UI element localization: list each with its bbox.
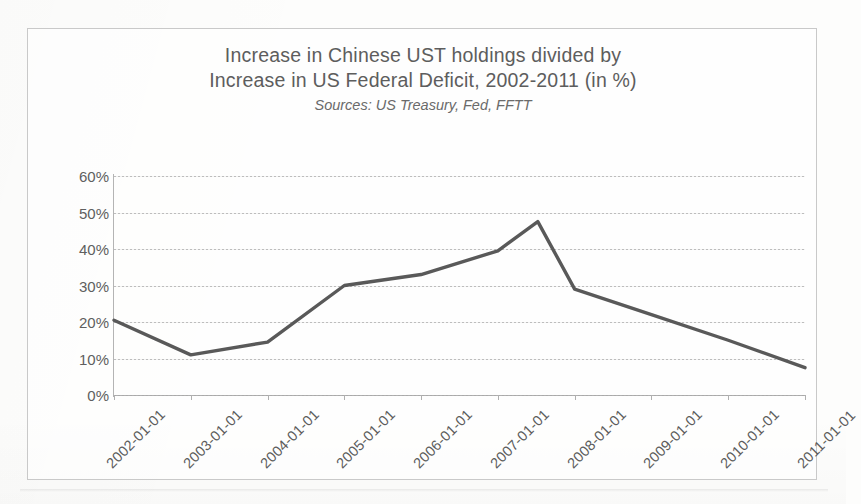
x-axis-tick bbox=[421, 395, 422, 400]
x-axis-tick bbox=[344, 395, 345, 400]
x-axis-tick-label: 2011-01-01 bbox=[794, 407, 858, 471]
x-axis-tick-label: 2008-01-01 bbox=[564, 406, 629, 471]
y-axis-tick-label: 50% bbox=[79, 204, 109, 221]
y-axis-tick-label: 40% bbox=[79, 241, 109, 258]
chart-title-line-2: Increase in US Federal Deficit, 2002-201… bbox=[28, 68, 818, 93]
y-axis-tick-label: 0% bbox=[87, 387, 109, 404]
y-axis-labels: 60%50%40%30%20%10%0% bbox=[55, 176, 109, 395]
x-axis-tick-label: 2004-01-01 bbox=[257, 406, 322, 471]
x-axis-tick bbox=[191, 395, 192, 400]
y-axis-tick-label: 10% bbox=[79, 350, 109, 367]
x-axis-tick bbox=[805, 395, 806, 400]
gridline-0 bbox=[114, 395, 805, 396]
x-axis-tick bbox=[498, 395, 499, 400]
x-axis-tick-label: 2006-01-01 bbox=[410, 406, 475, 471]
x-axis-tick bbox=[575, 395, 576, 400]
chart-frame: Increase in Chinese UST holdings divided… bbox=[27, 28, 817, 480]
x-axis-tick bbox=[651, 395, 652, 400]
x-axis-tick bbox=[728, 395, 729, 400]
x-axis-tick-label: 2003-01-01 bbox=[180, 406, 245, 471]
chart-title-line-1: Increase in Chinese UST holdings divided… bbox=[28, 43, 818, 68]
x-axis-tick bbox=[268, 395, 269, 400]
x-axis-tick-label: 2002-01-01 bbox=[103, 406, 168, 471]
y-axis-tick-label: 20% bbox=[79, 314, 109, 331]
x-axis-tick-label: 2010-01-01 bbox=[717, 406, 782, 471]
x-axis-tick-label: 2007-01-01 bbox=[487, 406, 552, 471]
y-axis-tick-label: 60% bbox=[79, 168, 109, 185]
chart-title-block: Increase in Chinese UST holdings divided… bbox=[28, 43, 818, 116]
y-axis-tick-label: 30% bbox=[79, 277, 109, 294]
chart-subtitle: Sources: US Treasury, Fed, FFTT bbox=[28, 95, 818, 116]
x-axis-tick bbox=[114, 395, 115, 400]
x-axis-tick-label: 2009-01-01 bbox=[640, 406, 705, 471]
page-edge-shadow bbox=[20, 489, 828, 492]
data-series-line bbox=[114, 176, 805, 395]
x-axis-tick-label: 2005-01-01 bbox=[333, 406, 398, 471]
plot-area bbox=[114, 176, 805, 395]
